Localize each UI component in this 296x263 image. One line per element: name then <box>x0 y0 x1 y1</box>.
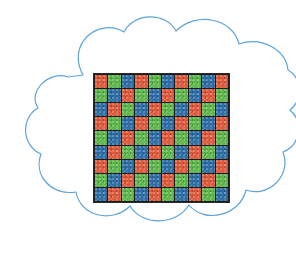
pixel-cell-green <box>175 174 187 187</box>
pixel-cell-blue <box>162 117 174 130</box>
pixel-cell-red <box>175 117 187 130</box>
pixel-cell-red <box>202 174 214 187</box>
pixel-cell-red <box>149 146 161 159</box>
pixel-cell-green <box>95 174 107 187</box>
pixel-cell-red <box>95 160 107 173</box>
pixel-cell-blue <box>108 131 120 144</box>
pixel-cell-red <box>216 160 228 173</box>
pixel-cell-red <box>149 188 161 201</box>
pixel-cell-red <box>108 188 120 201</box>
pixel-cell-blue <box>149 89 161 102</box>
pixel-cell-green <box>202 188 214 201</box>
illustration-canvas <box>0 0 296 263</box>
pixel-cell-green <box>189 117 201 130</box>
pixel-cell-blue <box>95 146 107 159</box>
pixel-cell-green <box>202 103 214 116</box>
pixel-cell-green <box>162 146 174 159</box>
pixel-cell-blue <box>135 188 147 201</box>
pixel-cell-green <box>175 131 187 144</box>
pixel-cell-green <box>216 174 228 187</box>
pixel-cell-green <box>149 75 161 88</box>
pixel-cell-red <box>95 117 107 130</box>
pixel-cell-red <box>189 103 201 116</box>
pixel-cell-green <box>162 188 174 201</box>
pixel-cell-green <box>216 89 228 102</box>
pixel-cell-red <box>162 89 174 102</box>
pixel-cell-blue <box>135 146 147 159</box>
pixel-cell-green <box>202 146 214 159</box>
pixel-cell-green <box>122 188 134 201</box>
pixel-cell-red <box>162 131 174 144</box>
pixel-cell-blue <box>122 160 134 173</box>
pixel-cell-blue <box>175 188 187 201</box>
pixel-cell-green <box>216 131 228 144</box>
pixel-cell-blue <box>95 188 107 201</box>
pixel-cell-red <box>202 89 214 102</box>
pixel-cell-green <box>189 75 201 88</box>
pixel-cell-green <box>122 146 134 159</box>
pixel-cell-red <box>216 117 228 130</box>
pixel-cell-red <box>189 188 201 201</box>
pixel-cell-blue <box>189 174 201 187</box>
pixel-cell-red <box>122 131 134 144</box>
pixel-cell-red <box>122 174 134 187</box>
pixel-cell-blue <box>162 160 174 173</box>
pixel-cell-red <box>135 160 147 173</box>
pixel-cell-red <box>216 75 228 88</box>
pixel-cell-blue <box>216 103 228 116</box>
pixel-cell-blue <box>175 103 187 116</box>
pixel-cell-green <box>135 89 147 102</box>
pixel-cell-blue <box>189 89 201 102</box>
pixel-cell-blue <box>216 188 228 201</box>
pixel-cell-blue <box>202 160 214 173</box>
pixel-cell-blue <box>162 75 174 88</box>
pixel-cell-red <box>135 117 147 130</box>
pixel-cell-green <box>135 174 147 187</box>
pixel-cell-green <box>108 75 120 88</box>
pixel-cell-red <box>108 146 120 159</box>
pixel-cell-red <box>135 75 147 88</box>
pixel-cell-green <box>135 131 147 144</box>
pixel-cell-green <box>162 103 174 116</box>
pixel-cell-blue <box>149 174 161 187</box>
pixel-cell-red <box>189 146 201 159</box>
pixel-cell-green <box>189 160 201 173</box>
pixel-cell-green <box>122 103 134 116</box>
pixel-cell-green <box>95 89 107 102</box>
pixel-cell-red <box>175 160 187 173</box>
pixel-cell-blue <box>122 117 134 130</box>
pixel-cell-blue <box>189 131 201 144</box>
pixel-cell-green <box>149 160 161 173</box>
pixel-cell-red <box>122 89 134 102</box>
pixel-cell-blue <box>108 89 120 102</box>
pixel-cell-blue <box>202 117 214 130</box>
pixel-cell-blue <box>135 103 147 116</box>
pixel-cell-blue <box>149 131 161 144</box>
rgb-pixel-sensor-grid <box>93 73 230 203</box>
pixel-cell-blue <box>202 75 214 88</box>
pixel-cell-green <box>108 117 120 130</box>
pixel-cell-red <box>149 103 161 116</box>
pixel-cell-blue <box>95 103 107 116</box>
pixel-cell-red <box>202 131 214 144</box>
pixel-cell-green <box>108 160 120 173</box>
pixel-cell-blue <box>108 174 120 187</box>
pixel-cell-blue <box>122 75 134 88</box>
pixel-cell-red <box>95 75 107 88</box>
pixel-cell-red <box>175 75 187 88</box>
pixel-cell-red <box>108 103 120 116</box>
pixel-cell-blue <box>175 146 187 159</box>
pixel-cell-green <box>175 89 187 102</box>
pixel-cell-blue <box>216 146 228 159</box>
pixel-cell-green <box>95 131 107 144</box>
pixel-cell-red <box>162 174 174 187</box>
pixel-cell-green <box>149 117 161 130</box>
